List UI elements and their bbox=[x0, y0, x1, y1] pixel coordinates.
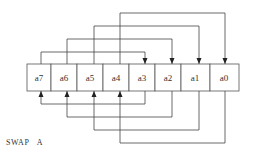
top-wires bbox=[41, 13, 228, 64]
bottom-wires bbox=[39, 91, 226, 143]
wire-a7-to-a3 bbox=[41, 52, 145, 64]
wire-a3-to-a7 bbox=[41, 91, 145, 104]
cell-label-a0: a0 bbox=[220, 73, 229, 83]
caption-operand: A bbox=[37, 138, 43, 147]
arrow-up-icon bbox=[65, 91, 70, 97]
arrow-down-icon bbox=[197, 58, 202, 64]
arrow-down-icon bbox=[223, 58, 228, 64]
cell-label-a2: a2 bbox=[164, 73, 173, 83]
wire-a1-to-a5 bbox=[94, 91, 199, 130]
caption-instruction: SWAP bbox=[6, 138, 29, 147]
cell-label-a1: a1 bbox=[191, 73, 200, 83]
diagram-caption: SWAP A bbox=[6, 138, 43, 147]
arrow-down-icon bbox=[143, 58, 148, 64]
arrow-up-icon bbox=[118, 91, 123, 97]
register: a7 a6 a5 a4 a3 a2 a1 a0 bbox=[27, 64, 239, 91]
cell-label-a7: a7 bbox=[35, 73, 44, 83]
cell-label-a6: a6 bbox=[60, 73, 69, 83]
swap-diagram: a7 a6 a5 a4 a3 a2 a1 a0 bbox=[0, 0, 256, 159]
wire-a4-to-a0 bbox=[120, 13, 225, 64]
cell-label-a4: a4 bbox=[112, 73, 121, 83]
cell-label-a3: a3 bbox=[138, 73, 147, 83]
arrow-down-icon bbox=[170, 58, 175, 64]
wire-a6-to-a2 bbox=[67, 39, 172, 64]
cell-label-a5: a5 bbox=[86, 73, 95, 83]
arrow-up-icon bbox=[92, 91, 97, 97]
arrow-up-icon bbox=[39, 91, 44, 97]
